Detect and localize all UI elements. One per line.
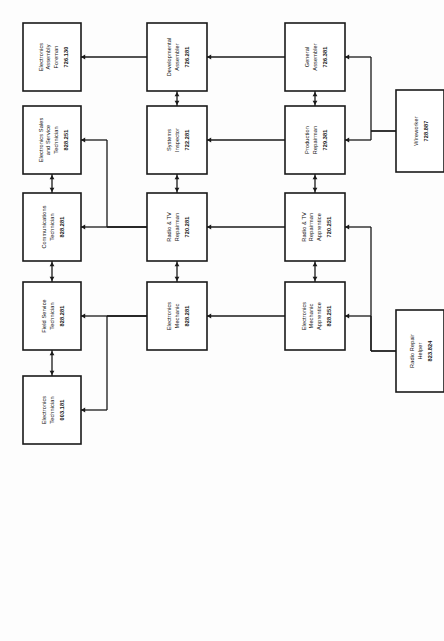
node-label-line: Electronics	[38, 43, 44, 72]
node-label-line: Production	[304, 126, 310, 154]
node-general-assembler[interactable]: GeneralAssembler726.381	[285, 23, 345, 91]
node-radio-repair-helper[interactable]: Radio RepairHelper823.824	[396, 310, 444, 392]
nodes-layer: ElectronicsAssemblyForeman726.130Electro…	[23, 23, 444, 444]
node-label-line: General	[304, 47, 310, 68]
node-electronics-assembly-foreman[interactable]: ElectronicsAssemblyForeman726.130	[23, 23, 81, 91]
node-electronics-mechanic-apprentice[interactable]: ElectronicsMechanicApprentice828.251	[285, 282, 345, 350]
arrowhead-electronics-sales-and-service-technician-to-communications-technician-b	[50, 188, 55, 192]
node-systems-inspector[interactable]: SystemsInspector722.281	[147, 106, 207, 174]
node-code: 722.281	[184, 130, 190, 151]
arrowhead-field-service-technician-to-electronics-technician-a	[50, 351, 55, 355]
node-code: 828.281	[59, 217, 65, 238]
node-code: 828.251	[326, 306, 332, 327]
node-wireworker[interactable]: Wireworker728.887	[396, 90, 444, 172]
node-field-service-technician[interactable]: Field ServiceTechnician828.281	[23, 282, 81, 350]
node-label-line: Technician	[49, 302, 55, 329]
node-developmental-assembler[interactable]: DevelopmentalAssembler726.281	[147, 23, 207, 91]
node-label-line: Assembly	[45, 44, 51, 69]
node-label-line: Electronics Sales	[38, 118, 44, 163]
arrowhead-production-repairman-to-radio-and-tv-repairman-apprentice-a	[313, 175, 318, 179]
node-radio-and-tv-repairman-apprentice[interactable]: Radio & TVRepairmanApprentice720.251	[285, 193, 345, 261]
node-label-line: Electronics	[41, 396, 47, 425]
arrowhead-field-service-technician-to-electronics-technician-b	[50, 371, 55, 375]
node-label-line: Mechanic	[174, 304, 180, 329]
node-code: 720.251	[326, 217, 332, 238]
node-code: 729.381	[322, 130, 328, 151]
arrowhead-radio-and-tv-repairman-to-electronics-mechanic-b	[175, 277, 180, 281]
node-label-line: Inspector	[174, 128, 180, 152]
node-code: 823.824	[427, 340, 433, 362]
node-box-wireworker[interactable]	[396, 90, 444, 172]
arrowhead-radio-and-tv-repairman-to-electronics-mechanic-a	[175, 262, 180, 266]
node-label-line: Electronics	[301, 302, 307, 331]
arrowhead-systems-inspector-to-radio-and-tv-repairman-b	[175, 188, 180, 192]
node-label-line: Foreman	[53, 45, 59, 68]
node-label-line: Field Service	[41, 299, 47, 333]
node-radio-and-tv-repairman[interactable]: Radio & TVRepairman720.281	[147, 193, 207, 261]
node-code: 828.281	[59, 306, 65, 327]
node-label-line: Radio & TV	[166, 212, 172, 242]
node-label-line: Apprentice	[316, 213, 322, 241]
arrowhead-production-repairman-to-radio-and-tv-repairman-apprentice-b	[313, 188, 318, 192]
node-communications-technician[interactable]: CommunicationsTechnician828.281	[23, 193, 81, 261]
node-label-line: Technician	[53, 126, 59, 153]
node-code: 720.281	[184, 217, 190, 238]
node-label-line: Developmental	[166, 38, 172, 77]
career-ladder-diagram: ElectronicsAssemblyForeman726.130Electro…	[0, 0, 444, 641]
arrowhead-communications-technician-to-field-service-technician-a	[50, 262, 55, 266]
node-code: 726.281	[184, 47, 190, 68]
node-label-line: Electronics	[166, 302, 172, 331]
node-code: 828.281	[184, 306, 190, 327]
arrowhead-radio-and-tv-repairman-apprentice-to-electronics-mechanic-apprentice-b	[313, 277, 318, 281]
node-label-line: Systems	[166, 129, 172, 151]
arrowhead-general-assembler-to-production-repairman-b	[313, 101, 318, 105]
node-label-line: Communications	[41, 205, 47, 248]
node-label-line: and Service	[45, 125, 51, 156]
arrowhead-developmental-assembler-to-systems-inspector-b	[175, 101, 180, 105]
node-label-line: Wireworker	[413, 116, 419, 145]
node-code: 726.381	[322, 47, 328, 68]
node-label-line: Apprentice	[316, 302, 322, 330]
node-label-line: Mechanic	[308, 304, 314, 329]
node-label-line: Radio Repair	[409, 334, 415, 368]
node-electronics-mechanic[interactable]: ElectronicsMechanic828.281	[147, 282, 207, 350]
arrowhead-general-assembler-to-production-repairman-a	[313, 92, 318, 96]
node-label-line: Repairman	[312, 126, 318, 154]
node-code: 728.887	[423, 121, 429, 142]
diagram-page: ElectronicsAssemblyForeman726.130Electro…	[0, 0, 444, 641]
arrowhead-communications-technician-to-field-service-technician-b	[50, 277, 55, 281]
node-label-line: Assembler	[174, 43, 180, 70]
node-label-line: Helper	[417, 342, 423, 359]
arrowhead-radio-and-tv-repairman-apprentice-to-electronics-mechanic-apprentice-a	[313, 262, 318, 266]
node-label-line: Assembler	[312, 43, 318, 70]
node-electronics-sales-and-service-technician[interactable]: Electronics Salesand ServiceTechnician82…	[23, 106, 81, 174]
arrowhead-developmental-assembler-to-systems-inspector-a	[175, 92, 180, 96]
node-label-line: Technician	[49, 213, 55, 240]
node-code: 828.251	[63, 130, 69, 151]
node-production-repairman[interactable]: ProductionRepairman729.381	[285, 106, 345, 174]
node-label-line: Repairman	[174, 213, 180, 241]
arrowhead-electronics-sales-and-service-technician-to-communications-technician-a	[50, 175, 55, 179]
node-electronics-technician[interactable]: ElectronicsTechnician003.181	[23, 376, 81, 444]
node-code: 726.130	[63, 47, 69, 68]
node-code: 003.181	[59, 400, 65, 421]
arrowhead-systems-inspector-to-radio-and-tv-repairman-a	[175, 175, 180, 179]
node-label-line: Radio & TV	[301, 212, 307, 242]
node-label-line: Technician	[49, 396, 55, 423]
node-label-line: Repairman	[308, 213, 314, 241]
